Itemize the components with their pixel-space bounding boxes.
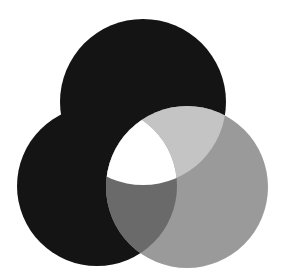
venn-diagram — [0, 0, 281, 279]
